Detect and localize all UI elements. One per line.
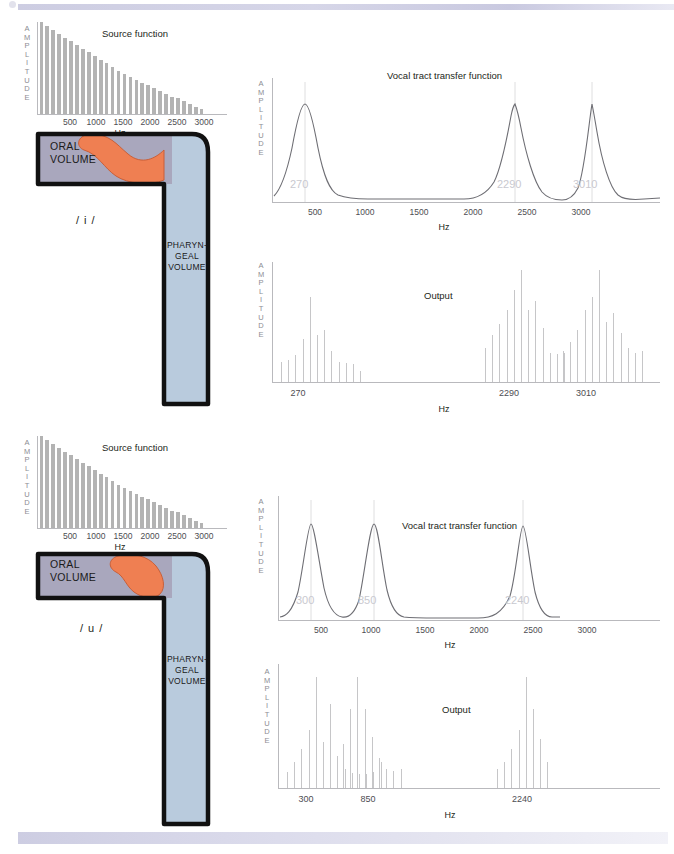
output-bar xyxy=(621,333,622,382)
output-bar xyxy=(295,355,296,382)
output-bar xyxy=(317,335,318,382)
output-bar xyxy=(331,351,332,382)
output-i-xaxis xyxy=(272,382,660,383)
output-i-tick-270: 270 xyxy=(283,388,313,398)
source-bar xyxy=(57,34,61,114)
output-bar xyxy=(557,354,558,382)
output-bar xyxy=(393,771,394,788)
source-bar xyxy=(135,494,139,528)
source-bar xyxy=(194,107,198,114)
source-bar xyxy=(99,60,103,114)
output-bar xyxy=(366,774,367,788)
source-bar xyxy=(140,497,144,528)
output-bar xyxy=(511,749,512,788)
output-bar xyxy=(339,362,340,382)
output-bar xyxy=(373,772,374,788)
source-bar xyxy=(111,481,115,528)
source-bar xyxy=(176,512,180,528)
source-bar xyxy=(200,109,204,114)
source-bar xyxy=(51,444,55,528)
source-bar xyxy=(140,83,144,114)
output-bar xyxy=(635,353,636,382)
transfer-i-tick-500: 500 xyxy=(302,207,328,217)
transfer-i-tick-2000: 2000 xyxy=(458,207,488,217)
output-u-tick-850: 850 xyxy=(353,794,383,804)
output-bar xyxy=(504,762,505,788)
output-bar xyxy=(310,297,311,382)
source-i-tick-500: 500 xyxy=(58,117,82,127)
output-i-ylabel: AMPLITUDE xyxy=(256,262,266,339)
source-bar xyxy=(57,448,61,528)
source-bar xyxy=(164,508,168,528)
source-bar xyxy=(81,49,85,114)
output-bar xyxy=(381,762,382,788)
source-bar xyxy=(63,452,67,528)
output-bar xyxy=(514,290,515,382)
output-bar xyxy=(316,677,317,788)
phar-label-line3-i: VOLUME xyxy=(168,262,206,272)
output-bar xyxy=(359,774,360,788)
phar-label-line2-u: GEAL xyxy=(175,665,199,675)
output-bar xyxy=(628,348,629,382)
transfer-u-tick-1000: 1000 xyxy=(356,625,386,635)
oral-volume-label-u: ORAL VOLUME xyxy=(50,558,130,584)
source-bar xyxy=(117,485,121,528)
transfer-u-xlabel: Hz xyxy=(438,640,462,650)
transfer-i-tick-1000: 1000 xyxy=(350,207,380,217)
vowel-label-i: / i / xyxy=(76,214,96,226)
source-bar xyxy=(111,67,115,114)
output-bar xyxy=(533,709,534,788)
output-bar xyxy=(386,769,387,788)
output-bar xyxy=(519,730,520,788)
source-bar xyxy=(164,94,168,114)
source-u-bars xyxy=(38,436,228,528)
output-u-tick-300: 300 xyxy=(291,794,321,804)
transfer-u-tick-2500: 2500 xyxy=(518,625,548,635)
transfer-u-tick-500: 500 xyxy=(308,625,334,635)
oral-label-line1-i: ORAL xyxy=(50,140,80,152)
source-bar xyxy=(45,26,49,114)
source-bar xyxy=(135,80,139,114)
source-u-xaxis xyxy=(37,528,227,529)
output-bar xyxy=(585,310,586,382)
transfer-u-tick-2000: 2000 xyxy=(464,625,494,635)
source-bar xyxy=(194,521,198,528)
vocal-tract-i: ORAL VOLUME PHARYN- GEAL VOLUME / i / xyxy=(32,128,237,413)
output-bar xyxy=(526,677,527,788)
output-bar xyxy=(535,301,536,382)
phar-label-line1-i: PHARYN- xyxy=(167,240,207,250)
output-bar xyxy=(346,363,347,382)
phar-label-line3-u: VOLUME xyxy=(168,676,206,686)
source-bar xyxy=(87,52,91,114)
output-bar xyxy=(577,330,578,382)
source-bar xyxy=(146,499,150,528)
oral-label-line2-u: VOLUME xyxy=(50,571,96,583)
source-bar xyxy=(99,474,103,528)
transfer-i-xlabel: Hz xyxy=(432,222,456,232)
output-bar xyxy=(301,749,302,788)
output-bar xyxy=(540,739,541,788)
output-u-tick-2240: 2240 xyxy=(505,794,539,804)
transfer-u-ylabel: AMPLITUDE xyxy=(256,498,266,575)
oral-volume-label-i: ORAL VOLUME xyxy=(50,140,130,166)
source-bar xyxy=(105,477,109,528)
output-i-xlabel: Hz xyxy=(432,404,456,414)
output-i-tick-3010: 3010 xyxy=(569,388,603,398)
source-bar xyxy=(158,91,162,114)
source-bar xyxy=(129,491,133,528)
source-bar xyxy=(93,56,97,114)
source-bar xyxy=(51,30,55,114)
transfer-i-tick-3000: 3000 xyxy=(566,207,596,217)
transfer-i-curve xyxy=(272,78,662,203)
source-bar xyxy=(200,523,204,528)
transfer-u-formant-850: 850 xyxy=(358,594,376,606)
transfer-i-formant-270: 270 xyxy=(290,178,308,190)
source-i-xaxis xyxy=(37,114,227,115)
output-u-xaxis xyxy=(278,788,660,789)
output-u-xlabel: Hz xyxy=(438,810,462,820)
source-bar xyxy=(75,45,79,114)
source-i-tick-3000: 3000 xyxy=(191,117,217,127)
source-u-tick-2000: 2000 xyxy=(137,531,163,541)
oral-label-line1-u: ORAL xyxy=(50,558,80,570)
output-bar xyxy=(357,677,358,788)
